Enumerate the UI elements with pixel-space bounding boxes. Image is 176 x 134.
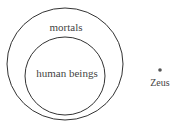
zeus-point-icon (158, 68, 162, 72)
human-beings-label: human beings (36, 67, 97, 79)
euler-diagram: mortals human beings Zeus (0, 0, 176, 134)
zeus-label: Zeus (150, 77, 170, 88)
mortals-label: mortals (50, 21, 83, 33)
